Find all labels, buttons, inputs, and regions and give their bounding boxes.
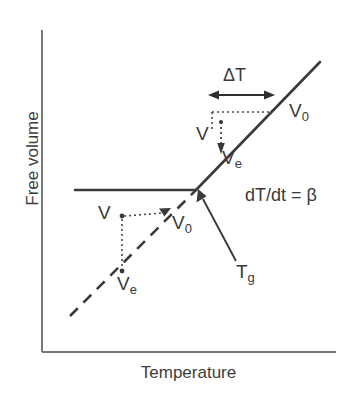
tg-base: T — [236, 261, 248, 282]
lower-ve-subscript: e — [130, 282, 137, 297]
tg-arrow-shaft — [203, 199, 236, 261]
free-volume-temperature-figure: Free volume Temperature ΔT V V0 Ve V V0 … — [0, 0, 363, 395]
delta-t-label: ΔT — [223, 66, 246, 84]
upper-v0-base: V — [289, 100, 302, 121]
rate-equation-label: dT/dt = β — [245, 186, 317, 204]
lower-ve-label: Ve — [117, 274, 137, 296]
upper-ve-label: Ve — [222, 148, 242, 170]
tg-label: Tg — [236, 262, 255, 284]
delta-t-arrow-head-right — [264, 91, 275, 100]
delta-t-arrow-head-left — [208, 91, 219, 100]
lower-v0-base: V — [172, 212, 185, 233]
upper-v0-subscript: 0 — [302, 109, 309, 124]
upper-v-start-dot — [219, 120, 223, 124]
lower-v-label: V — [98, 203, 111, 222]
lower-v-dot — [120, 214, 125, 219]
tg-arrow-head — [197, 189, 207, 203]
x-axis-label: Temperature — [42, 364, 335, 381]
upper-ve-subscript: e — [235, 156, 242, 171]
upper-v-label: V — [196, 124, 209, 143]
y-axis-label: Free volume — [24, 94, 41, 224]
lower-dotted-horizontal — [124, 213, 163, 216]
upper-v0-label: V0 — [289, 101, 309, 123]
upper-ve-base: V — [222, 147, 235, 168]
liquid-line-segment — [196, 62, 320, 190]
lower-v0-subscript: 0 — [185, 221, 192, 236]
lower-v0-label: V0 — [172, 213, 192, 235]
lower-ve-base: V — [117, 273, 130, 294]
tg-subscript: g — [248, 270, 255, 285]
